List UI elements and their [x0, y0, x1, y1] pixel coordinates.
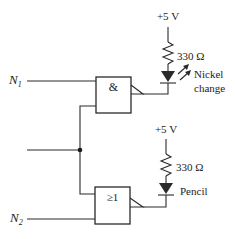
or-gate-output-indicator [130, 198, 143, 207]
light-emission-arrows-icon [178, 64, 191, 80]
junction-dot [78, 148, 83, 153]
and-output-wire [143, 83, 168, 94]
upper-led-branch: +5 V 330 Ω Nickel change [157, 10, 225, 94]
and-gate-symbol: & [109, 80, 119, 94]
lower-resistor-icon [161, 154, 171, 176]
or-output-wire [143, 195, 166, 207]
upper-led-icon [161, 71, 175, 82]
upper-resistor-label: 330 Ω [177, 50, 204, 62]
lower-led-branch: +5 V 330 Ω Pencil [155, 123, 208, 197]
and-gate: & [96, 77, 143, 113]
or-gate: ≥1 [95, 187, 143, 224]
shared-input [27, 106, 96, 194]
n2-label: N2 [9, 210, 23, 227]
logic-circuit-diagram: N1 & +5 V 330 Ω Nickel change N2 [0, 0, 237, 239]
pencil-label: Pencil [180, 185, 208, 197]
shared-bus-wire [80, 106, 96, 194]
lower-resistor-label: 330 Ω [176, 161, 203, 173]
input-n2: N2 [9, 210, 95, 227]
n1-label: N1 [8, 72, 22, 89]
change-label: change [194, 82, 225, 94]
or-gate-symbol: ≥1 [107, 191, 119, 203]
input-n1: N1 [8, 72, 96, 89]
upper-resistor-icon [163, 42, 173, 64]
upper-supply-label: +5 V [157, 10, 179, 22]
lower-supply-label: +5 V [155, 123, 177, 135]
lower-led-icon [159, 183, 173, 194]
nickel-label: Nickel [194, 68, 223, 80]
and-gate-output-indicator [131, 85, 143, 94]
